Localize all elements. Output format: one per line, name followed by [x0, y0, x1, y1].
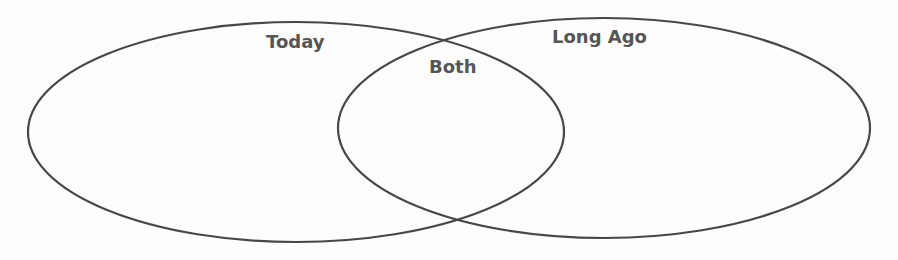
both-label: Both	[429, 57, 477, 77]
long-ago-label: Long Ago	[552, 27, 647, 47]
today-label: Today	[266, 32, 324, 52]
today-ellipse	[28, 22, 564, 242]
long-ago-ellipse	[338, 18, 870, 238]
venn-shapes	[0, 0, 898, 260]
venn-diagram: Today Both Long Ago	[0, 0, 898, 260]
